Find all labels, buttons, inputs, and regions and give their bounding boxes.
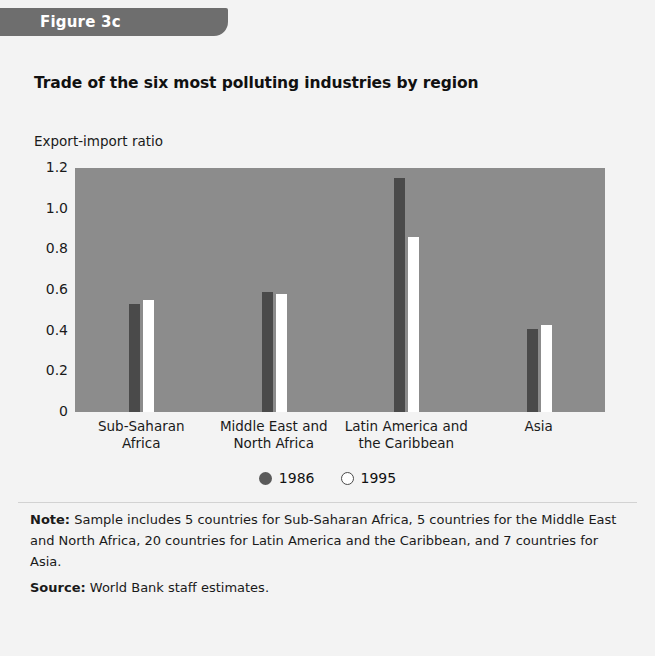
y-tick-label: 0.4 [6,322,68,338]
bar-1986 [262,292,273,412]
x-category-label: Sub-SaharanAfrica [75,418,208,452]
y-tick-label: 0.6 [6,281,68,297]
bar-group [262,168,287,412]
bars-layer [75,168,605,412]
x-category-label-line: Middle East and [208,418,341,435]
note-text: Sample includes 5 countries for Sub-Saha… [30,512,616,569]
x-category-label: Latin America andthe Caribbean [340,418,473,452]
x-category-label-line: Sub-Saharan [75,418,208,435]
source-label: Source: [30,580,86,595]
bar-1995 [408,237,419,412]
bar-1995 [276,294,287,412]
chart-title: Trade of the six most polluting industri… [34,74,478,92]
x-axis-category-labels: Sub-SaharanAfricaMiddle East andNorth Af… [75,418,605,462]
x-category-label: Asia [473,418,606,435]
bar-1995 [541,325,552,412]
x-category-label-line: North Africa [208,435,341,452]
x-category-label: Middle East andNorth Africa [208,418,341,452]
legend-entry: 1986 [259,470,315,486]
footnote-divider [18,502,637,503]
note-label: Note: [30,512,70,527]
legend-entry: 1995 [341,470,397,486]
y-tick-label: 1.2 [6,159,68,175]
y-tick-label: 0 [6,403,68,419]
source-footnote: Source: World Bank staff estimates. [30,578,630,598]
y-axis-tick-labels: 1.21.00.80.60.40.20 [0,168,68,412]
x-category-label-line: Latin America and [340,418,473,435]
bar-1995 [143,300,154,412]
figure-panel: Figure 3c Trade of the six most pollutin… [0,0,655,656]
source-text: World Bank staff estimates. [86,580,269,595]
x-category-label-line: Africa [75,435,208,452]
filled-circle-icon [259,472,272,485]
bar-1986 [129,304,140,412]
y-tick-label: 0.8 [6,240,68,256]
bar-group [129,168,154,412]
bar-group [527,168,552,412]
legend-label: 1986 [279,470,315,486]
note-footnote: Note: Sample includes 5 countries for Su… [30,509,630,572]
legend-label: 1995 [361,470,397,486]
bar-1986 [527,329,538,412]
bar-1986 [394,178,405,412]
chart-legend: 19861995 [0,470,655,486]
open-circle-icon [341,472,354,485]
y-axis-title: Export-import ratio [34,133,163,149]
x-category-label-line: Asia [473,418,606,435]
y-tick-label: 0.2 [6,362,68,378]
x-category-label-line: the Caribbean [340,435,473,452]
figure-number-label: Figure 3c [40,13,121,31]
y-tick-label: 1.0 [6,200,68,216]
figure-number-tab: Figure 3c [0,8,228,36]
plot-area [75,168,605,412]
bar-group [394,168,419,412]
